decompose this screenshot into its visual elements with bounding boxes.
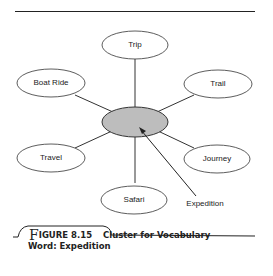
node-trip: Trip	[102, 31, 168, 59]
line-trail	[157, 95, 194, 112]
node-travel: Travel	[17, 144, 85, 172]
line-journey	[158, 131, 194, 148]
expedition-label: Expedition	[186, 199, 223, 208]
node-label-safari: Safari	[124, 195, 145, 204]
line-travel	[75, 131, 112, 148]
node-label-trip: Trip	[128, 40, 142, 49]
caption-dropcap: F	[29, 227, 39, 243]
figure-number: IGURE 8.15	[39, 230, 92, 240]
caption-title-line-1: Cluster for Vocabulary	[103, 230, 210, 240]
caption-line-1: FIGURE 8.15 Cluster for Vocabulary	[29, 228, 269, 241]
caption-title-line-2: Word: Expedition	[28, 241, 269, 252]
node-journey: Journey	[184, 145, 250, 173]
line-boat-ride	[75, 95, 113, 112]
node-label-boat-ride: Boat Ride	[33, 78, 69, 87]
node-safari: Safari	[101, 186, 167, 214]
node-label-journey: Journey	[203, 154, 231, 163]
figure-caption: FIGURE 8.15 Cluster for Vocabulary Word:…	[29, 228, 269, 252]
center-node	[102, 107, 168, 137]
node-label-trail: Trail	[210, 79, 225, 88]
node-boat-ride: Boat Ride	[17, 69, 85, 97]
node-label-travel: Travel	[40, 153, 62, 162]
node-trail: Trail	[184, 70, 252, 98]
